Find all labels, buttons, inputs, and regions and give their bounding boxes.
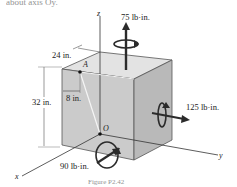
label-x: x	[14, 172, 19, 181]
dim-32-label: 32 in.	[32, 97, 51, 107]
label-y: y	[218, 151, 223, 160]
moment-90-label: 90 lb·in.	[60, 161, 89, 171]
label-A: A	[82, 60, 88, 69]
dim-24-label: 24 in.	[52, 50, 71, 60]
top-text: about axis Oy.	[6, 0, 58, 7]
moment-125-label: 125 lb·in.	[186, 102, 219, 112]
moment-75-label: 75 lb·in.	[121, 12, 150, 22]
point-A	[78, 70, 82, 74]
label-O: O	[103, 124, 109, 133]
cube-moment-diagram: about axis Oy. A O z y x 24 in. 32 in. 8…	[0, 0, 237, 187]
point-O	[98, 132, 102, 136]
figure-caption: Figure P2.42	[88, 178, 125, 186]
dim-24-line	[78, 48, 100, 52]
dim-8-label: 8 in.	[66, 93, 81, 103]
